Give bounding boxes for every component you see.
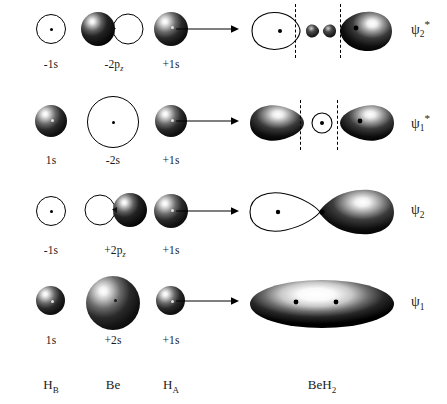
p-orbital-svg — [80, 188, 152, 232]
molecular-orbital-psi2 — [248, 184, 396, 242]
atomic-orbital-be-2s-positive — [84, 274, 142, 332]
subscript-b: B — [53, 385, 59, 395]
mo-row-psi2-star: -1s -2pz +1s ψ2* — [0, 0, 447, 90]
subscript-z: z — [120, 64, 123, 73]
mo-label-psi2: ψ2 — [411, 202, 425, 220]
ao-label-r2c3: +1s — [141, 154, 201, 166]
ao-label-r1c3: +1s — [141, 58, 201, 70]
nucleus-dot — [114, 299, 117, 302]
mo-label-psi2-star: ψ2* — [411, 18, 430, 39]
psi-subscript: 1 — [420, 123, 425, 133]
p-orbital-svg — [78, 8, 150, 50]
molecular-orbital-psi1 — [248, 276, 396, 334]
nucleus-dot — [50, 210, 53, 213]
axis-label-h-b: HB — [21, 377, 81, 395]
atomic-orbital-be-2pz-positive — [80, 188, 152, 232]
ao-label-r2c1: 1s — [21, 154, 81, 166]
atomic-orbital-hb-1s-negative — [32, 10, 70, 48]
atomic-orbital-hb-1s — [32, 102, 70, 140]
ao-label-r2c2: -2s — [83, 154, 143, 166]
axis-label-beh2: BeH2 — [292, 377, 352, 395]
psi-superscript-star: * — [425, 112, 431, 124]
nodal-plane-line — [295, 4, 296, 58]
psi-superscript-star: * — [425, 18, 431, 30]
nucleus-dot — [171, 119, 174, 122]
axis-label-h-a: HA — [141, 377, 201, 395]
ao-label-r4c1: 1s — [21, 334, 81, 346]
nucleus-dot — [171, 209, 174, 212]
mo-row-psi1: 1s +2s +1s ψ1 — [0, 270, 447, 360]
atomic-orbital-hb-1s — [34, 284, 68, 318]
nucleus-dot — [171, 300, 174, 303]
nucleus-dot — [51, 119, 54, 122]
atomic-orbital-be-2s-negative — [85, 94, 141, 150]
axis-label-be: Be — [83, 377, 143, 393]
nucleus-dot — [171, 26, 174, 29]
nodal-plane-line — [337, 100, 338, 150]
molecular-orbital-psi1-star — [248, 98, 396, 150]
mo-label-psi1-star: ψ1* — [411, 112, 430, 133]
mo-label-psi1: ψ1 — [411, 294, 425, 312]
psi-subscript: 2 — [420, 210, 425, 220]
nodal-plane-line — [340, 4, 341, 58]
nucleus-dot — [51, 300, 54, 303]
atomic-orbital-be-2pz-negative — [78, 8, 150, 50]
atomic-orbital-hb-1s-negative — [32, 192, 70, 230]
nucleus-dot — [50, 28, 53, 31]
ao-label-r1c1: -1s — [21, 58, 81, 70]
combination-arrow — [176, 22, 240, 36]
subscript-2: 2 — [332, 385, 337, 395]
combination-arrow — [176, 204, 240, 218]
combination-arrow — [176, 294, 240, 308]
psi-subscript: 1 — [420, 302, 425, 312]
ao-label-r3c3: +1s — [141, 244, 201, 256]
ao-label-r4c3: +1s — [141, 334, 201, 346]
subscript-z: z — [123, 250, 126, 259]
mo-row-psi2: -1s +2pz +1s ψ2 — [0, 180, 447, 270]
psi-subscript: 2 — [420, 29, 425, 39]
subscript-a: A — [172, 385, 179, 395]
ao-label-r3c2: +2pz — [85, 244, 145, 259]
nodal-plane-line — [300, 100, 301, 150]
ao-label-r3c1: -1s — [21, 244, 81, 256]
combination-arrow — [176, 114, 240, 128]
mo-row-psi1-star: 1s -2s +1s ψ1* — [0, 90, 447, 180]
nucleus-dot — [112, 121, 115, 124]
ao-label-r1c2: -2pz — [84, 58, 144, 73]
mo-diagram-canvas: -1s -2pz +1s ψ2* — [0, 0, 447, 404]
ao-label-r4c2: +2s — [83, 334, 143, 346]
molecular-orbital-psi2-star — [248, 2, 396, 60]
orbital-sphere-shaded — [86, 276, 140, 330]
